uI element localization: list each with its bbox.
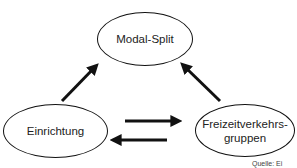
- node-label: Einrichtung: [27, 124, 85, 138]
- node-einrichtung: Einrichtung: [3, 104, 108, 158]
- node-label: Freizeitverkehrs- gruppen: [202, 117, 288, 145]
- node-modal-split: Modal-Split: [97, 12, 193, 66]
- node-freizeitverkehrsgruppen: Freizeitverkehrs- gruppen: [195, 104, 295, 157]
- arrow-einrichtung-to-modal-split: [62, 67, 95, 101]
- arrow-freizeit-to-modal-split: [184, 66, 220, 101]
- node-label: Modal-Split: [116, 32, 174, 46]
- relationship-diagram: Modal-Split Einrichtung Freizeitverkehrs…: [0, 0, 297, 168]
- source-note: Quelle: Ei: [252, 160, 282, 167]
